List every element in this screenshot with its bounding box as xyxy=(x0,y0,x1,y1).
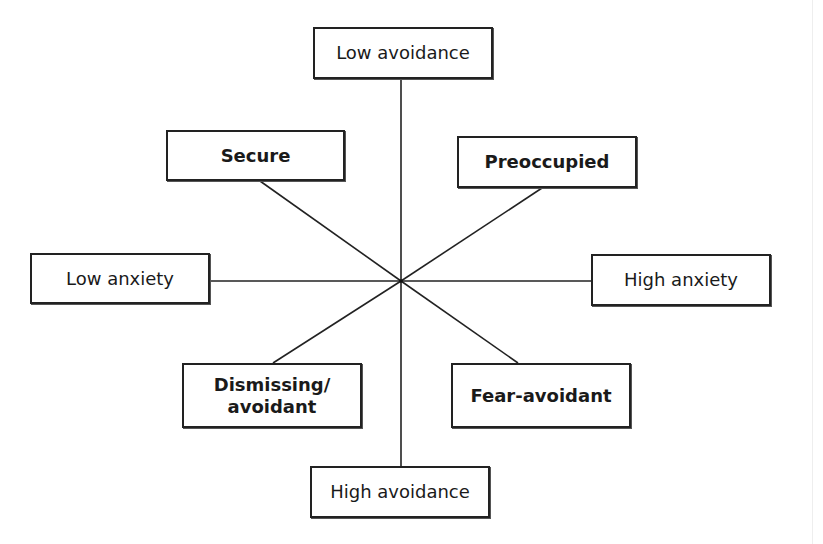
low-anxiety-box: Low anxiety xyxy=(30,253,210,304)
attachment-diagram: Low avoidance Secure Preoccupied Low anx… xyxy=(0,0,823,544)
center-point xyxy=(399,279,403,283)
dismissing-label-line1: Dismissing/ xyxy=(214,374,331,396)
dismissing-avoidant-box: Dismissing/ avoidant xyxy=(182,363,362,428)
dismissing-connector-line xyxy=(273,281,401,363)
preoccupied-connector-line xyxy=(401,188,542,281)
secure-connector-line xyxy=(260,181,401,281)
preoccupied-box: Preoccupied xyxy=(457,136,637,188)
high-anxiety-label: High anxiety xyxy=(624,269,738,291)
fear-avoidant-box: Fear-avoidant xyxy=(451,363,631,428)
low-avoidance-label: Low avoidance xyxy=(336,42,470,64)
low-anxiety-label: Low anxiety xyxy=(66,268,174,290)
high-avoidance-box: High avoidance xyxy=(310,466,490,518)
dismissing-label-line2: avoidant xyxy=(228,396,317,418)
fear-avoidant-connector-line xyxy=(401,281,518,363)
page-edge-divider xyxy=(812,0,813,544)
secure-box: Secure xyxy=(166,130,345,181)
preoccupied-label: Preoccupied xyxy=(485,151,610,173)
low-avoidance-box: Low avoidance xyxy=(313,27,493,79)
high-anxiety-box: High anxiety xyxy=(591,254,771,306)
high-avoidance-label: High avoidance xyxy=(330,481,470,503)
fear-avoidant-label: Fear-avoidant xyxy=(470,385,611,407)
secure-label: Secure xyxy=(221,145,291,167)
